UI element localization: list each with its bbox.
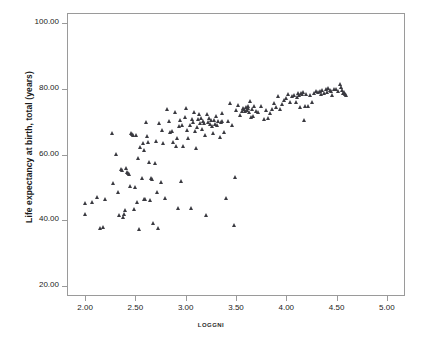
- data-point-marker: [179, 179, 183, 183]
- data-point-marker: [160, 128, 164, 132]
- data-point-marker: [142, 197, 146, 201]
- data-point-marker: [268, 111, 272, 115]
- data-point-marker: [228, 101, 232, 105]
- data-point-marker: [251, 114, 255, 118]
- data-point-marker: [329, 89, 333, 93]
- y-tick-mark: [62, 286, 67, 287]
- y-axis-title: Life expectancy at birth, total (years): [24, 27, 34, 267]
- data-point-marker: [200, 127, 204, 131]
- data-point-marker: [127, 172, 131, 176]
- data-point-marker: [248, 99, 252, 103]
- data-point-marker: [252, 104, 256, 108]
- data-point-marker: [90, 200, 94, 204]
- x-tick-label: 5.00: [367, 303, 407, 312]
- data-point-marker: [204, 213, 208, 217]
- data-point-marker: [144, 120, 148, 124]
- data-point-marker: [110, 131, 114, 135]
- data-point-marker: [161, 141, 165, 145]
- data-point-marker: [167, 119, 171, 123]
- data-point-marker: [189, 206, 193, 210]
- data-point-marker: [157, 121, 161, 125]
- data-point-marker: [330, 93, 334, 97]
- data-point-marker: [295, 95, 299, 99]
- y-tick-mark: [62, 23, 67, 24]
- data-point-marker: [195, 125, 199, 129]
- data-point-marker: [266, 116, 270, 120]
- data-point-marker: [194, 146, 198, 150]
- y-tick-mark: [62, 89, 67, 90]
- data-point-marker: [178, 118, 182, 122]
- data-point-marker: [310, 100, 314, 104]
- data-point-marker: [224, 196, 228, 200]
- x-tick-mark: [85, 296, 86, 301]
- data-point-marker: [175, 136, 179, 140]
- y-tick-label: 100.00: [35, 17, 59, 26]
- data-point-marker: [344, 93, 348, 97]
- x-tick-mark: [236, 296, 237, 301]
- x-tick-mark: [186, 296, 187, 301]
- data-point-marker: [146, 140, 150, 144]
- data-point-marker: [238, 113, 242, 117]
- data-point-marker: [183, 115, 187, 119]
- data-point-marker: [294, 100, 298, 104]
- data-point-marker: [156, 226, 160, 230]
- data-point-marker: [154, 139, 158, 143]
- y-tick-label: 40.00: [39, 214, 59, 223]
- data-point-marker: [136, 156, 140, 160]
- data-point-marker: [220, 111, 224, 115]
- y-tick-label: 20.00: [39, 280, 59, 289]
- data-point-marker: [259, 104, 263, 108]
- data-point-marker: [222, 130, 226, 134]
- data-point-marker: [192, 110, 196, 114]
- data-point-marker: [276, 94, 280, 98]
- data-point-marker: [111, 181, 115, 185]
- x-tick-label: 4.50: [317, 303, 357, 312]
- data-point-marker: [185, 128, 189, 132]
- data-point-marker: [278, 107, 282, 111]
- data-point-marker: [134, 133, 138, 137]
- data-point-marker: [214, 114, 218, 118]
- data-point-marker: [184, 106, 188, 110]
- data-point-marker: [298, 105, 302, 109]
- data-point-marker: [186, 136, 190, 140]
- data-point-marker: [218, 135, 222, 139]
- y-tick-label: 80.00: [39, 83, 59, 92]
- data-point-marker: [233, 175, 237, 179]
- data-point-marker: [170, 129, 174, 133]
- data-point-marker: [163, 196, 167, 200]
- x-tick-label: 2.00: [65, 303, 105, 312]
- data-point-marker: [103, 197, 107, 201]
- data-point-marker: [135, 200, 139, 204]
- data-point-marker: [302, 118, 306, 122]
- data-point-marker: [159, 180, 163, 184]
- data-point-marker: [211, 131, 215, 135]
- x-tick-mark: [387, 296, 388, 301]
- data-point-marker: [165, 107, 169, 111]
- data-point-marker: [137, 227, 141, 231]
- data-point-marker: [180, 123, 184, 127]
- data-point-marker: [124, 166, 128, 170]
- x-tick-label: 3.00: [166, 303, 206, 312]
- data-point-marker: [191, 120, 195, 124]
- x-tick-label: 2.50: [115, 303, 155, 312]
- data-point-marker: [280, 102, 284, 106]
- data-point-marker: [150, 177, 154, 181]
- data-point-marker: [123, 208, 127, 212]
- x-tick-label: 3.50: [216, 303, 256, 312]
- data-point-marker: [114, 152, 118, 156]
- data-point-marker: [140, 176, 144, 180]
- y-tick-label: 60.00: [39, 149, 59, 158]
- data-point-marker: [151, 221, 155, 225]
- y-tick-mark: [62, 155, 67, 156]
- data-point-marker: [153, 161, 157, 165]
- data-point-marker: [101, 225, 105, 229]
- data-point-marker: [197, 112, 201, 116]
- data-point-marker: [95, 195, 99, 199]
- scatter-plot-figure: Life expectancy at birth, total (years) …: [0, 0, 422, 344]
- data-point-marker: [155, 190, 159, 194]
- data-point-marker: [128, 184, 132, 188]
- data-point-marker: [173, 110, 177, 114]
- data-point-marker: [142, 148, 146, 152]
- data-point-marker: [203, 133, 207, 137]
- data-point-marker: [181, 144, 185, 148]
